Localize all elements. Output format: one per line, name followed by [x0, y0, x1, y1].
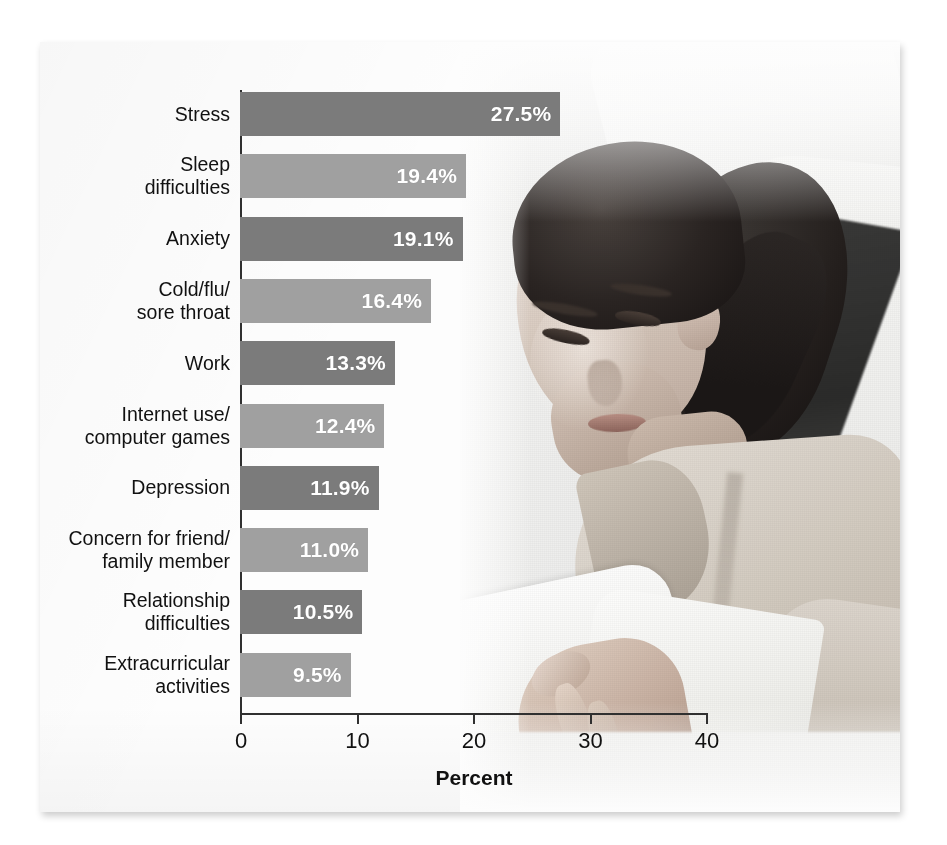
x-axis-tick-label: 30	[564, 728, 618, 754]
bar-value-label: 19.4%	[396, 164, 457, 188]
bar: 11.9%	[240, 466, 379, 510]
bar-value-label: 10.5%	[293, 600, 354, 624]
bar: 12.4%	[240, 404, 384, 448]
category-label: Sleep difficulties	[45, 153, 230, 199]
x-axis-tick	[240, 713, 242, 724]
x-axis-title: Percent	[240, 766, 708, 790]
bar-value-label: 19.1%	[393, 227, 454, 251]
bar-value-label: 12.4%	[315, 414, 376, 438]
x-axis-tick	[473, 713, 475, 724]
category-label: Stress	[45, 103, 230, 126]
category-label: Cold/flu/ sore throat	[45, 278, 230, 324]
bar-value-label: 13.3%	[325, 351, 386, 375]
bar-value-label: 11.9%	[310, 476, 369, 500]
bar-value-label: 11.0%	[300, 538, 359, 562]
page-root: 010203040 Percent Stress27.5%Sleep diffi…	[0, 0, 947, 845]
x-axis-tick-label: 20	[447, 728, 501, 754]
bar: 11.0%	[240, 528, 368, 572]
bar-value-label: 27.5%	[491, 102, 552, 126]
category-label: Internet use/ computer games	[45, 403, 230, 449]
bar-value-label: 16.4%	[362, 289, 423, 313]
x-axis-tick-label: 10	[331, 728, 385, 754]
bar: 27.5%	[240, 92, 560, 136]
horizontal-bar-chart: 010203040 Percent Stress27.5%Sleep diffi…	[40, 42, 900, 812]
x-axis-tick	[357, 713, 359, 724]
bar: 10.5%	[240, 590, 362, 634]
bar: 13.3%	[240, 341, 395, 385]
category-label: Anxiety	[45, 227, 230, 250]
bar: 16.4%	[240, 279, 431, 323]
bar: 19.4%	[240, 154, 466, 198]
category-label: Work	[45, 352, 230, 375]
category-label: Depression	[45, 476, 230, 499]
bar-value-label: 9.5%	[293, 663, 342, 687]
bar: 19.1%	[240, 217, 463, 261]
figure-card: 010203040 Percent Stress27.5%Sleep diffi…	[40, 42, 900, 812]
x-axis-tick	[590, 713, 592, 724]
x-axis-tick-label: 0	[214, 728, 268, 754]
category-label: Extracurricular activities	[45, 652, 230, 698]
category-label: Concern for friend/ family member	[45, 527, 230, 573]
bar: 9.5%	[240, 653, 351, 697]
category-label: Relationship difficulties	[45, 589, 230, 635]
x-axis-tick-label: 40	[680, 728, 734, 754]
x-axis-tick	[706, 713, 708, 724]
